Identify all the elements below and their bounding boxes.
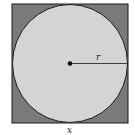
radius-label: r bbox=[96, 52, 101, 62]
side-label: x bbox=[67, 125, 72, 135]
center-point bbox=[68, 61, 72, 65]
diagram: r x bbox=[0, 0, 135, 135]
